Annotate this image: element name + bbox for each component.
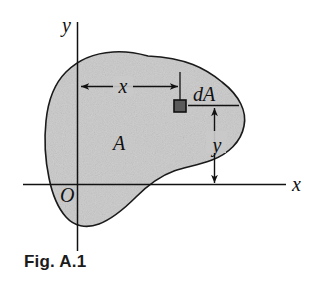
y-axis-label: y: [60, 14, 71, 37]
x-axis-label: x: [291, 173, 301, 195]
figure-caption: Fig. A.1: [24, 252, 86, 272]
x-distance-label: x: [118, 75, 128, 97]
origin-label: O: [60, 184, 74, 206]
figure-container: x dA y A O x y Fig. A.1: [0, 0, 319, 291]
area-element-dA: [174, 100, 186, 112]
dA-element-square: [174, 100, 186, 112]
area-label: A: [111, 132, 126, 154]
figure-canvas: x dA y A O x y: [0, 0, 319, 291]
dA-label: dA: [193, 83, 216, 105]
y-distance-label: y: [211, 134, 222, 157]
